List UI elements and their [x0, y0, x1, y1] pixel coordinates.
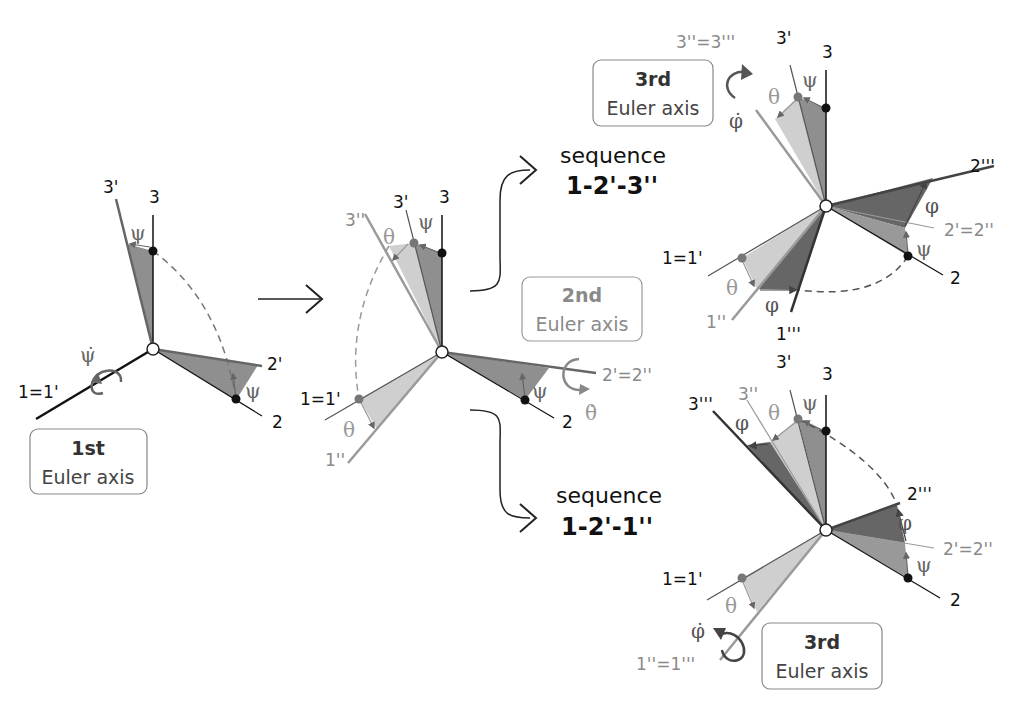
- sequence-bottom-word: sequence: [556, 483, 662, 508]
- label-1dprime: 1'': [706, 312, 726, 332]
- label-2triple: 2''': [970, 156, 995, 176]
- label-3: 3: [822, 364, 833, 384]
- box-title: 2nd: [562, 284, 602, 306]
- label-3prime: 3': [776, 352, 792, 372]
- label-psi: ψ: [532, 379, 548, 403]
- box-subtitle: Euler axis: [42, 466, 135, 488]
- label-3triple: 3''': [688, 394, 713, 414]
- label-2prime: 2': [267, 354, 283, 374]
- dot-3: [149, 247, 158, 256]
- label-psi-dot: ψ̇: [80, 343, 96, 367]
- diagram-3rd-rotation-1-2-1: 3' 3 3''' 3'' φ θ ψ 2''' φ 2'=2'' ψ 2 1=…: [636, 352, 993, 689]
- dot-2: [232, 395, 241, 404]
- diagram-2nd-rotation: 3' 3 3'' θ ψ 1=1' θ 1'' ψ 2 2'=2'' θ̇ 2n…: [300, 187, 652, 470]
- label-3: 3: [439, 187, 450, 207]
- label-psi: ψ: [916, 237, 932, 261]
- label-2triple: 2''': [907, 484, 932, 504]
- label-theta: θ: [383, 225, 395, 249]
- label-phi-dot: φ̇: [729, 109, 743, 133]
- label-psi: ψ: [130, 221, 146, 245]
- label-psi: ψ: [916, 553, 932, 577]
- origin: [147, 343, 159, 355]
- label-3dprime: 3'': [738, 384, 758, 404]
- box-title: 3rd: [804, 631, 840, 653]
- box-title: 1st: [71, 437, 105, 459]
- label-1-eq-1prime: 1=1': [662, 569, 703, 589]
- diagram-1st-rotation: 3' 3 ψ 2' ψ 2 1=1' ψ̇ 1st Euler axis: [18, 177, 283, 494]
- label-3prime: 3': [393, 192, 409, 212]
- label-2: 2: [950, 268, 961, 288]
- label-1-eq-1prime: 1=1': [300, 389, 341, 409]
- label-phi: φ: [898, 511, 912, 535]
- label-psi: ψ: [418, 210, 434, 234]
- label-3dprime: 3'': [345, 210, 365, 230]
- rotation-arrow-phidot: [722, 633, 744, 661]
- label-phi-dot: φ̇: [691, 619, 705, 643]
- label-psi: ψ: [802, 391, 818, 415]
- label-2prime-eq-2dprime: 2'=2'': [944, 220, 994, 240]
- sequence-top-name: 1-2'-3'': [566, 172, 658, 200]
- label-2prime-eq-2dprime: 2'=2'': [943, 539, 993, 559]
- transition-arrow: [258, 285, 322, 313]
- label-1dprime-eq-1triple: 1''=1''': [636, 654, 695, 674]
- label-1dprime: 1'': [325, 450, 345, 470]
- label-phi: φ: [765, 293, 779, 317]
- sequence-bottom-name: 1-2'-1'': [561, 513, 653, 541]
- label-phi: φ: [925, 194, 939, 218]
- label-1-eq-1prime: 1=1': [662, 248, 703, 268]
- label-psi: ψ: [802, 68, 818, 92]
- box-subtitle: Euler axis: [536, 313, 629, 335]
- label-2: 2: [272, 412, 283, 432]
- box-subtitle: Euler axis: [607, 97, 700, 119]
- euler-rotation-diagram: 3' 3 ψ 2' ψ 2 1=1' ψ̇ 1st Euler axis: [0, 0, 1034, 715]
- label-1-eq-1prime: 1=1': [18, 382, 59, 402]
- label-2: 2: [562, 412, 573, 432]
- label-psi: ψ: [245, 379, 261, 403]
- label-3prime: 3': [776, 28, 792, 48]
- label-theta: θ: [768, 401, 780, 425]
- label-phi: φ: [735, 411, 749, 435]
- label-3dprime-eq-3triple: 3''=3''': [676, 32, 735, 52]
- label-1triple: 1''': [776, 324, 801, 344]
- label-3: 3: [149, 187, 160, 207]
- label-theta-dot: θ̇: [585, 401, 597, 425]
- label-2prime-eq-2dprime: 2'=2'': [602, 365, 652, 385]
- label-theta: θ: [726, 276, 738, 300]
- label-3: 3: [822, 42, 833, 62]
- sequence-top-word: sequence: [560, 143, 666, 168]
- branch-arrows: [470, 156, 536, 532]
- label-theta: θ: [768, 85, 780, 109]
- box-subtitle: Euler axis: [776, 660, 869, 682]
- rotation-arrow-thetadot: [563, 359, 580, 390]
- label-2: 2: [950, 590, 961, 610]
- label-theta: θ: [725, 594, 737, 618]
- label-theta: θ: [343, 418, 355, 442]
- label-3prime: 3': [103, 177, 119, 197]
- box-title: 3rd: [635, 68, 671, 90]
